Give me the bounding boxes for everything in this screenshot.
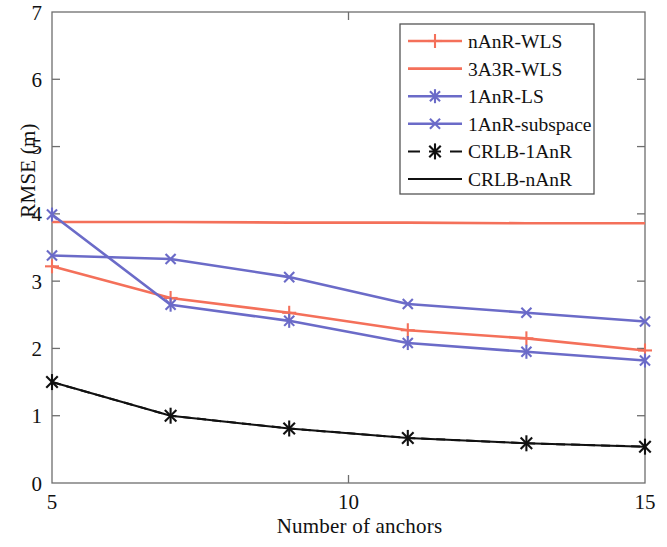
legend-label: 3A3R-WLS <box>468 59 562 80</box>
series-1anr-ls <box>47 208 650 368</box>
y-axis-label: RMSE (m) <box>16 91 41 251</box>
series-3a3r-wls <box>52 222 645 223</box>
series-crlb-nanr <box>52 382 645 447</box>
series-crlb-1anr <box>46 374 651 455</box>
x-axis-label: Number of anchors <box>52 514 667 539</box>
series-line <box>52 215 645 361</box>
series-line <box>52 256 645 322</box>
y-axis-tick-label: 1 <box>32 404 43 428</box>
series-line <box>52 382 645 447</box>
y-axis-tick-label: 7 <box>32 1 43 25</box>
series-nanr-wls <box>45 259 652 357</box>
series-line <box>52 266 645 350</box>
rmse-vs-anchors-chart: 0123456751015nAnR-WLS3A3R-WLS1AnR-LS1AnR… <box>0 0 667 547</box>
legend: nAnR-WLS3A3R-WLS1AnR-LS1AnR-subspaceCRLB… <box>400 24 594 194</box>
plot-area: 0123456751015nAnR-WLS3A3R-WLS1AnR-LS1AnR… <box>0 0 667 547</box>
legend-label: 1AnR-LS <box>468 86 544 107</box>
y-axis-tick-label: 2 <box>32 337 43 361</box>
series-line <box>52 382 645 447</box>
legend-label: 1AnR-subspace <box>468 114 591 135</box>
y-axis-tick-label: 0 <box>32 472 43 496</box>
series-line <box>52 222 645 223</box>
x-axis-tick-label: 5 <box>47 490 58 514</box>
x-axis-tick-label: 10 <box>338 490 359 514</box>
y-axis-tick-label: 6 <box>32 68 43 92</box>
x-axis-tick-label: 15 <box>635 490 656 514</box>
legend-label: nAnR-WLS <box>468 31 562 52</box>
y-axis-tick-label: 3 <box>32 270 43 294</box>
legend-label: CRLB-1AnR <box>468 141 572 162</box>
legend-label: CRLB-nAnR <box>468 169 572 190</box>
